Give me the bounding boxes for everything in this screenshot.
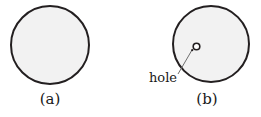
panel-label-a: (a)	[28, 92, 72, 107]
hole-annotation-label: hole	[149, 71, 177, 84]
disk-a-shape	[11, 6, 89, 84]
hole-icon	[193, 43, 200, 50]
disk-b-shape	[173, 6, 249, 82]
figure-container: (a) hole (b)	[0, 0, 261, 117]
hole-leader-dot	[191, 49, 193, 51]
panel-label-b: (b)	[185, 92, 229, 107]
